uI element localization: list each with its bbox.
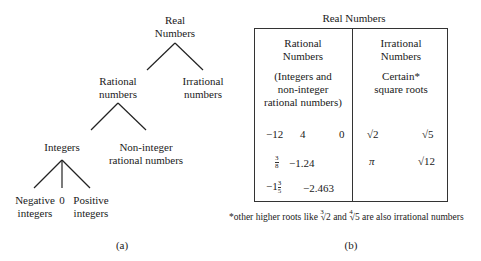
node-text: Non-integer [106,141,186,154]
desc-text: Certain* [360,70,442,83]
example-sqrt12: √12 [418,155,435,168]
example-4: 4 [300,128,306,141]
root-index: 4 [349,208,353,216]
desc-text: non-integer [258,83,348,96]
footnote: *other higher roots like 3√2 and 4√5 are… [229,208,464,224]
heading-text: Numbers [360,50,442,63]
node-text: Numbers [145,27,205,40]
denominator: 8 [275,163,279,170]
example-neg12: −12 [266,128,283,141]
node-rational-numbers: Rational numbers [88,75,148,101]
whole-part: −1 [266,180,278,192]
caption-a: (a) [110,239,134,252]
root-index: 3 [320,208,324,216]
rational-heading: Rational Numbers [262,37,344,63]
node-real-numbers: Real Numbers [145,14,205,40]
node-text: Integers [32,141,92,154]
irrational-heading: Irrational Numbers [360,37,442,63]
column-divider [352,28,353,202]
node-text: numbers [88,88,148,101]
node-text: Positive [66,194,116,207]
example-neg2-463: −2.463 [303,182,334,195]
caption-b: (b) [339,239,363,252]
desc-text: (Integers and [258,70,348,83]
node-positive-integers: Positive integers [66,194,116,220]
footnote-text: *other higher roots like [229,212,320,222]
node-text: Real [145,14,205,27]
fraction: 35 [278,180,282,195]
example-pi: π [369,155,375,168]
fraction: 38 [275,155,279,170]
example-three-eighths: 38 [275,155,279,170]
table-title: Real Numbers [314,12,394,25]
node-text: numbers [173,88,233,101]
node-text: integers [66,207,116,220]
desc-text: square roots [360,83,442,96]
node-text: Rational [88,75,148,88]
footnote-text: and [331,212,349,222]
node-integers: Integers [32,141,92,154]
heading-text: Rational [262,37,344,50]
node-text: Irrational [173,75,233,88]
example-0: 0 [339,128,345,141]
heading-text: Numbers [262,50,344,63]
denominator: 5 [278,188,282,195]
node-irrational-numbers: Irrational numbers [173,75,233,101]
footnote-text: are also irrational numbers [360,212,464,222]
example-sqrt5: √5 [422,128,434,141]
desc-text: rational numbers) [258,96,348,109]
example-sqrt2: √2 [367,128,379,141]
node-text: Negative [10,194,60,207]
example-neg1-three-fifths: −135 [266,180,281,195]
rational-description: (Integers and non-integer rational numbe… [258,70,348,109]
irrational-description: Certain* square roots [360,70,442,96]
example-neg1-24: −1.24 [289,157,314,170]
node-non-integer: Non-integer rational numbers [106,141,186,167]
node-text: integers [10,207,60,220]
node-negative-integers: Negative integers [10,194,60,220]
node-text: rational numbers [106,154,186,167]
heading-text: Irrational [360,37,442,50]
